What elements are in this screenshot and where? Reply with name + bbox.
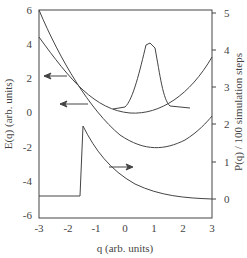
svg-text:-1: -1 [91,222,100,234]
y-right-axis-label: P(q) / 100 simulation steps [232,53,245,171]
svg-text:-4: -4 [23,175,33,187]
energy-parabola-lower [39,10,212,148]
svg-text:3: 3 [224,81,230,93]
svg-text:-3: -3 [34,222,44,234]
axis-arrows [44,73,133,170]
svg-text:4: 4 [224,44,230,56]
svg-text:0: 0 [122,222,128,234]
plot-frame [39,10,212,218]
svg-text:1: 1 [224,156,230,168]
x-ticks: -3 -2 -1 0 1 2 3 [34,222,215,234]
svg-text:5: 5 [224,7,230,19]
svg-text:1: 1 [151,222,157,234]
probability-decay [39,126,212,199]
svg-text:3: 3 [209,222,215,234]
x-axis-label: q (arb. units) [97,242,154,255]
svg-text:-2: -2 [63,222,72,234]
svg-text:4: 4 [27,38,33,50]
svg-text:0: 0 [27,106,33,118]
probability-peak [113,43,190,109]
y-left-axis-label: E(q) (arb. units) [2,78,15,149]
y-right-tick-marks [212,13,216,199]
svg-text:2: 2 [180,222,186,234]
svg-text:2: 2 [27,72,33,84]
svg-text:6: 6 [27,4,33,16]
y-right-ticks: 5 4 3 2 1 0 [224,7,230,205]
svg-text:0: 0 [224,193,230,205]
chart: 6 4 2 0 -2 -4 -6 5 4 3 2 1 0 -3 -2 -1 0 … [0,0,247,258]
svg-text:-6: -6 [23,209,33,221]
svg-text:2: 2 [224,118,230,130]
y-left-ticks: 6 4 2 0 -2 -4 -6 [23,4,33,221]
svg-text:-2: -2 [23,141,32,153]
